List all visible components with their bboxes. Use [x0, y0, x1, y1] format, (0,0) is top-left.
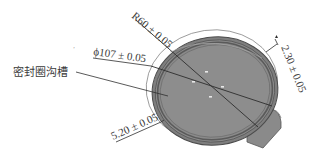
stray-mark: ʼ: [73, 46, 75, 52]
seal-groove-label: 密封圈沟槽: [13, 65, 68, 79]
seal-groove-drawing: ʼ R60 ± 0.05 ϕ107 ± 0.05 密封圈沟槽 5.20 ± 0.…: [0, 0, 311, 158]
dimension-r60-text: R60 ± 0.05: [130, 9, 176, 50]
seal-groove-callout: 密封圈沟槽: [13, 65, 168, 96]
dimension-5-20: 5.20 ± 0.05: [109, 110, 164, 142]
dimension-2-30-text: 2.30 ± 0.05: [279, 43, 309, 94]
